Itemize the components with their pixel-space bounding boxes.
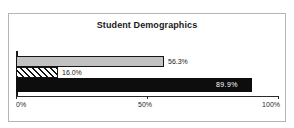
bar-value-label: 16.0% <box>62 67 82 78</box>
chart-title: Student Demographics <box>0 20 294 30</box>
x-axis-tick-label: 100% <box>262 101 280 108</box>
x-axis-tick <box>147 96 148 99</box>
chart-container: Student Demographics 56.3% 16.0% 89.9% 0… <box>0 0 294 128</box>
plot-area: 56.3% 16.0% 89.9% <box>16 51 278 96</box>
x-axis-tick <box>16 96 17 99</box>
bar-value-label: 56.3% <box>168 56 188 67</box>
x-axis-tick-label: 50% <box>138 101 152 108</box>
x-axis-tick <box>278 96 279 99</box>
bar-value-label: 89.9% <box>216 78 238 92</box>
bar-series-1[interactable] <box>16 56 164 67</box>
x-axis-tick-label: 0% <box>16 101 26 108</box>
bar-series-2[interactable] <box>16 67 58 78</box>
